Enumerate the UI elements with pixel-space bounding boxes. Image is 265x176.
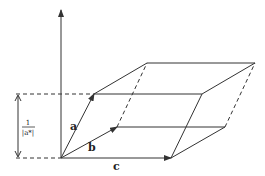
- label-b: b: [88, 141, 96, 154]
- svg-text:|a*|: |a*|: [22, 129, 34, 137]
- unit-cell-diagram: 1 |a*| a b c: [0, 0, 265, 176]
- svg-text:1: 1: [26, 119, 30, 127]
- height-label: 1 |a*|: [19, 118, 35, 137]
- label-c: c: [113, 160, 120, 173]
- label-a: a: [70, 120, 77, 133]
- cell-solid-edges: [94, 63, 255, 158]
- cell-hidden-edges: [117, 63, 255, 127]
